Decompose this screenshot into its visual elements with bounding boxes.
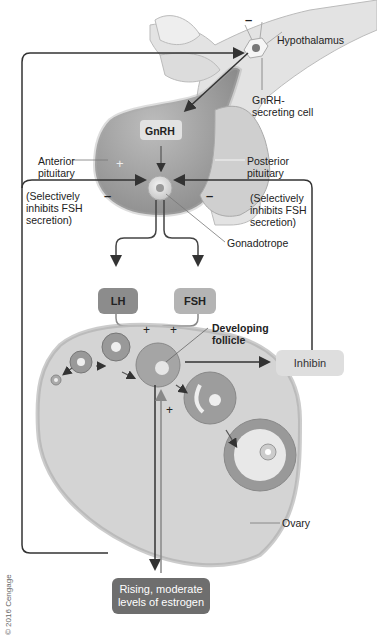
minus-sign: – <box>206 190 213 202</box>
plus-sign: + <box>166 404 173 416</box>
label-line: (Selectively <box>250 192 307 204</box>
label-line: levels of estrogen <box>118 596 204 609</box>
label-gonadotrope: Gonadotrope <box>227 237 288 249</box>
label-line: secretion) <box>26 214 83 226</box>
label-gnrh-secreting-cell: GnRH- secreting cell <box>252 94 313 118</box>
minus-sign: – <box>104 190 111 202</box>
label-line: Rising, moderate <box>119 583 202 596</box>
label-developing-follicle: Developing follicle <box>212 322 269 346</box>
label-hypothalamus: Hypothalamus <box>277 34 344 46</box>
label-line: pituitary <box>38 167 75 179</box>
label-selectively-inhibits-left: (Selectively inhibits FSH secretion) <box>26 190 83 226</box>
label-line: pituitary <box>247 167 289 179</box>
label-line: Posterior <box>247 155 289 167</box>
label-line: GnRH- <box>252 94 313 106</box>
plus-sign: + <box>170 324 177 336</box>
minus-sign: – <box>245 14 252 26</box>
label-anterior-pituitary: Anterior pituitary <box>38 155 75 179</box>
label-ovary: Ovary <box>282 517 310 529</box>
label-line: inhibits FSH <box>26 202 83 214</box>
label-line: follicle <box>212 334 269 346</box>
label-selectively-inhibits-right: (Selectively inhibits FSH secretion) <box>250 192 307 228</box>
estrogen-box: Rising, moderate levels of estrogen <box>112 578 210 614</box>
label-line: secretion) <box>250 216 307 228</box>
copyright-notice: © 2016 Cengage <box>4 574 13 635</box>
lh-box: LH <box>98 288 138 314</box>
fsh-box: FSH <box>174 288 216 314</box>
label-line: Anterior <box>38 155 75 167</box>
label-line: (Selectively <box>26 190 83 202</box>
plus-sign: + <box>143 324 150 336</box>
label-line: inhibits FSH <box>250 204 307 216</box>
inhibin-box: Inhibin <box>276 350 344 376</box>
label-line: Developing <box>212 322 269 334</box>
label-gnrh: GnRH <box>145 125 175 137</box>
label-posterior-pituitary: Posterior pituitary <box>247 155 289 179</box>
plus-sign: + <box>116 158 124 170</box>
label-line: secreting cell <box>252 106 313 118</box>
